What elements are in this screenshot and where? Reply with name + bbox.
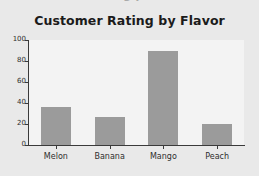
bar-mango bbox=[148, 51, 178, 146]
y-tick-mark bbox=[25, 145, 28, 146]
y-tick-mark bbox=[25, 124, 28, 125]
x-tick-mark bbox=[110, 146, 111, 149]
y-tick-label: 20 bbox=[17, 119, 26, 127]
x-tick-label-banana: Banana bbox=[83, 152, 137, 161]
bar-peach bbox=[202, 124, 232, 145]
y-tick-label: 0 bbox=[22, 140, 26, 148]
x-tick-mark bbox=[56, 146, 57, 149]
x-tick-mark bbox=[163, 146, 164, 149]
y-tick-mark bbox=[25, 40, 28, 41]
x-tick-label-peach: Peach bbox=[190, 152, 244, 161]
y-tick-mark bbox=[25, 82, 28, 83]
bar-banana bbox=[95, 117, 125, 145]
y-tick-label: 60 bbox=[17, 77, 26, 85]
bar-chart-figure: Customer Rating by Flavor 020406080100 M… bbox=[0, 0, 259, 176]
y-tick-label: 80 bbox=[17, 56, 26, 64]
x-tick-label-melon: Melon bbox=[29, 152, 83, 161]
y-tick-mark bbox=[25, 103, 28, 104]
chart-title: Customer Rating by Flavor bbox=[0, 13, 259, 28]
y-tick: 0 bbox=[0, 145, 36, 146]
bar-melon bbox=[41, 107, 71, 145]
y-tick-mark bbox=[25, 61, 28, 62]
y-tick-label: 40 bbox=[17, 98, 26, 106]
y-tick-label: 100 bbox=[13, 35, 26, 43]
x-tick-mark bbox=[217, 146, 218, 149]
bars-layer bbox=[29, 40, 244, 145]
x-tick-label-mango: Mango bbox=[137, 152, 191, 161]
x-axis-line bbox=[28, 145, 245, 146]
